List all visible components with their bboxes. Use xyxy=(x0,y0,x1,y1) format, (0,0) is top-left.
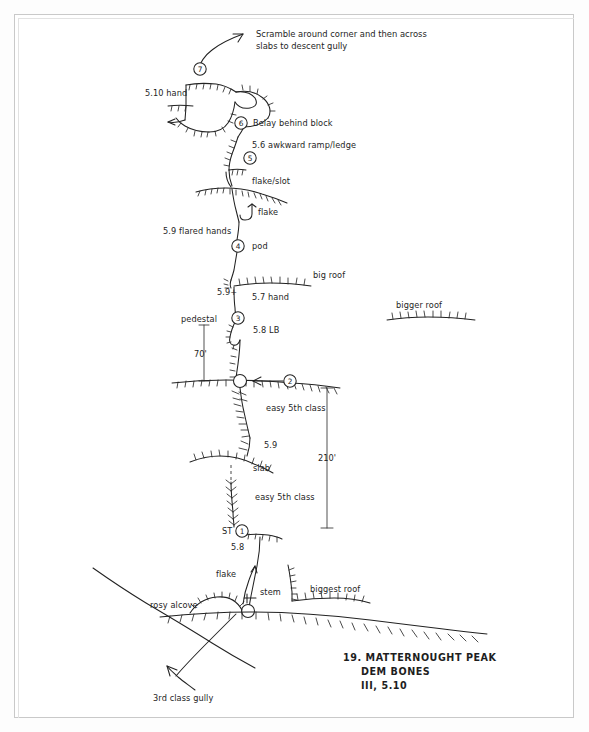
label-pod: pod xyxy=(252,241,268,251)
pitch2-ledge xyxy=(172,375,340,395)
label-5-9: 5.9 xyxy=(264,440,277,450)
pitch1-lower xyxy=(226,480,239,527)
descent-note-line1: Scramble around corner and then across xyxy=(256,29,427,39)
label-belay-behind-block: Belay behind block xyxy=(253,118,333,128)
label-3rd-class-gully: 3rd class gully xyxy=(153,693,213,703)
pitch-marker-1[interactable]: 1 xyxy=(236,525,248,537)
label-easy-5th-class-upper: easy 5th class xyxy=(266,403,326,413)
pitch-marker-6[interactable]: 6 xyxy=(235,117,247,129)
label-biggest-roof: biggest roof xyxy=(310,584,361,594)
descent-note-line2: slabs to descent gully xyxy=(256,41,347,51)
title-grade: III, 5.10 xyxy=(361,680,407,691)
label-stem: stem xyxy=(260,587,281,597)
pitch-marker-4[interactable]: 4 xyxy=(232,240,244,252)
topo-drawing: 7 6 5 4 3 2 1 Scramble around corner and… xyxy=(0,0,589,732)
label-flake-slot: flake/slot xyxy=(252,176,291,186)
title-peak: 19. MATTERNOUGHT PEAK xyxy=(343,652,497,663)
label-dim-70: 70' xyxy=(194,349,207,359)
label-bigger-roof: bigger roof xyxy=(396,300,443,310)
label-5-9-flared-hands: 5.9 flared hands xyxy=(163,226,231,236)
pitch-marker-4-number: 4 xyxy=(236,242,241,251)
bigger-roof-feature xyxy=(387,311,475,320)
topo-page: 7 6 5 4 3 2 1 Scramble around corner and… xyxy=(0,0,589,732)
pitch-marker-2-number: 2 xyxy=(288,377,293,386)
label-5-7-hand: 5.7 hand xyxy=(252,292,289,302)
pitch-marker-1-number: 1 xyxy=(240,527,245,536)
pitch-marker-7[interactable]: 7 xyxy=(194,63,206,75)
pitch6-ramp xyxy=(224,137,246,175)
pitch-marker-2[interactable]: 2 xyxy=(284,375,296,387)
label-st: ST xyxy=(222,526,233,536)
pitch4-to-big-roof xyxy=(224,252,311,318)
label-flake-upper: flake xyxy=(258,207,278,217)
pitch-marker-7-number: 7 xyxy=(198,65,203,74)
label-5-9-plus: 5.9+ xyxy=(217,287,237,297)
label-5-6-awkward-ramp: 5.6 awkward ramp/ledge xyxy=(252,140,356,150)
pitch-marker-3[interactable]: 3 xyxy=(232,312,244,324)
pitch-marker-6-number: 6 xyxy=(239,119,244,128)
pitch-marker-5-number: 5 xyxy=(248,154,253,163)
pitch-marker-3-number: 3 xyxy=(236,314,241,323)
label-5-8: 5.8 xyxy=(231,542,244,552)
title-route-name: DEM BONES xyxy=(361,666,430,677)
label-slab: slab xyxy=(253,463,270,473)
station-1-terrain xyxy=(244,534,282,610)
third-class-gully-terrain xyxy=(93,568,255,676)
label-rosy-alcove: rosy alcove xyxy=(150,600,198,610)
label-pedestal: pedestal xyxy=(181,314,217,324)
label-big-roof: big roof xyxy=(313,270,346,280)
label-5-10-hand: 5.10 hand xyxy=(145,88,187,98)
label-flake-lower: flake xyxy=(216,569,236,579)
label-easy-5th-class-lower: easy 5th class xyxy=(255,492,315,502)
label-5-8-lb: 5.8 LB xyxy=(253,325,280,335)
pitch-marker-5[interactable]: 5 xyxy=(244,152,256,164)
label-dim-210: 210' xyxy=(318,453,336,463)
base-terrain xyxy=(160,612,487,642)
